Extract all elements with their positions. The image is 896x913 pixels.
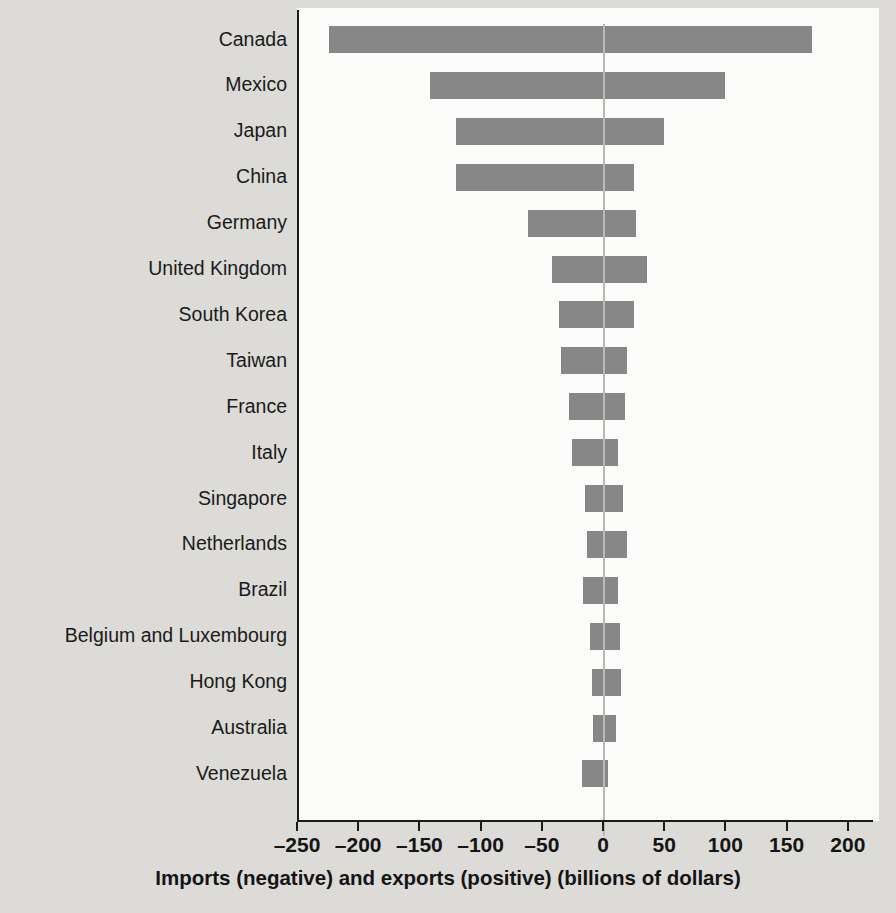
y-axis-label: South Korea <box>2 305 287 325</box>
bar-import <box>430 72 603 99</box>
bar-row <box>297 531 896 558</box>
bar-row <box>297 439 896 466</box>
x-axis-tick <box>663 822 665 831</box>
bar-export <box>603 669 621 696</box>
bar-import <box>585 485 603 512</box>
bar-export <box>603 26 812 53</box>
bar-import <box>552 256 603 283</box>
bar-export <box>603 485 623 512</box>
bar-import <box>528 210 603 237</box>
y-axis-line <box>297 10 299 822</box>
bar-export <box>603 531 627 558</box>
bar-row <box>297 760 896 787</box>
bar-row <box>297 118 896 145</box>
plot-area <box>297 12 896 821</box>
bar-row <box>297 669 896 696</box>
x-axis-tick <box>357 822 359 831</box>
bar-row <box>297 72 896 99</box>
bar-row <box>297 347 896 374</box>
bar-import <box>329 26 603 53</box>
x-axis-tick-label: –100 <box>457 833 504 857</box>
x-axis-tick <box>418 822 420 831</box>
bar-export <box>603 164 634 191</box>
bar-import <box>456 164 603 191</box>
y-axis-label: Brazil <box>2 580 287 600</box>
bar-export <box>603 439 618 466</box>
x-axis-tick <box>724 822 726 831</box>
y-axis-label: United Kingdom <box>2 259 287 279</box>
bar-import <box>593 715 603 742</box>
bar-export <box>603 577 618 604</box>
bar-import <box>582 760 603 787</box>
bar-export <box>603 301 634 328</box>
y-axis-label: Netherlands <box>2 534 287 554</box>
bar-row <box>297 623 896 650</box>
bar-row <box>297 210 896 237</box>
bar-row <box>297 393 896 420</box>
x-axis-tick-label: –50 <box>524 833 559 857</box>
bar-export <box>603 623 620 650</box>
y-axis-label: Australia <box>2 718 287 738</box>
bar-export <box>603 72 725 99</box>
bar-export <box>603 347 627 374</box>
y-axis-category-labels: CanadaMexicoJapanChinaGermanyUnited King… <box>0 0 287 913</box>
y-axis-label: Japan <box>2 121 287 141</box>
y-axis-label: Taiwan <box>2 351 287 371</box>
bar-export <box>603 715 616 742</box>
bar-export <box>603 210 636 237</box>
bar-row <box>297 256 896 283</box>
y-axis-label: France <box>2 397 287 417</box>
bar-import <box>456 118 603 145</box>
y-axis-label: Venezuela <box>2 764 287 784</box>
zero-reference-line <box>603 24 605 836</box>
x-axis-tick-label: 50 <box>653 833 676 857</box>
bar-import <box>590 623 603 650</box>
bar-row <box>297 577 896 604</box>
bar-import <box>583 577 603 604</box>
bar-import <box>569 393 603 420</box>
x-axis-tick <box>541 822 543 831</box>
y-axis-label: Mexico <box>2 75 287 95</box>
bar-export <box>603 256 647 283</box>
bar-import <box>559 301 603 328</box>
bar-row <box>297 715 896 742</box>
x-axis-tick-label: –250 <box>274 833 321 857</box>
x-axis-tick-label: 0 <box>597 833 609 857</box>
bar-import <box>561 347 603 374</box>
bar-import <box>587 531 603 558</box>
x-axis-tick-label: –200 <box>335 833 382 857</box>
bar-row <box>297 26 896 53</box>
y-axis-label: Canada <box>2 30 287 50</box>
y-axis-label: Germany <box>2 213 287 233</box>
bar-import <box>592 669 603 696</box>
x-axis-tick-label: –150 <box>396 833 443 857</box>
x-axis-tick <box>296 822 298 831</box>
y-axis-label: Belgium and Luxembourg <box>2 626 287 646</box>
bar-row <box>297 485 896 512</box>
y-axis-label: Italy <box>2 443 287 463</box>
x-axis-tick-label: 200 <box>830 833 865 857</box>
y-axis-label: Singapore <box>2 489 287 509</box>
bar-import <box>572 439 603 466</box>
chart-figure: CanadaMexicoJapanChinaGermanyUnited King… <box>0 0 896 913</box>
bar-export <box>603 118 664 145</box>
y-axis-label: Hong Kong <box>2 672 287 692</box>
y-axis-label: China <box>2 167 287 187</box>
x-axis-tick <box>786 822 788 831</box>
x-axis-title: Imports (negative) and exports (positive… <box>0 866 896 890</box>
x-axis-tick <box>602 822 604 831</box>
bar-row <box>297 301 896 328</box>
bar-export <box>603 393 625 420</box>
bar-row <box>297 164 896 191</box>
x-axis-tick <box>847 822 849 831</box>
x-axis-tick-label: 150 <box>769 833 804 857</box>
x-axis-tick-label: 100 <box>708 833 743 857</box>
x-axis-tick <box>480 822 482 831</box>
